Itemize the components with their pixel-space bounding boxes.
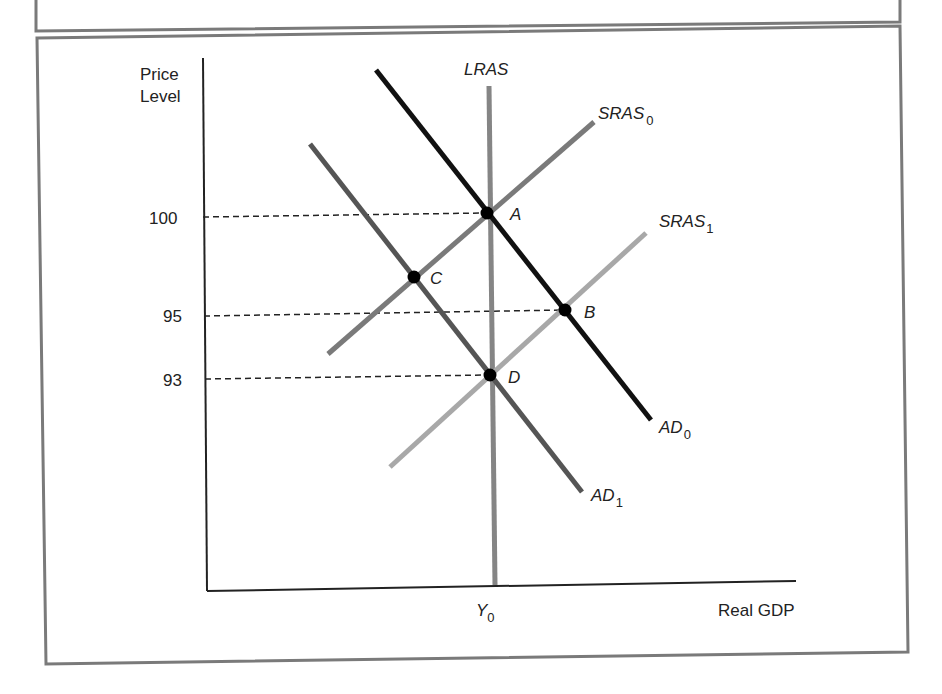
ad1-label: AD1	[590, 486, 623, 510]
figure-frame	[37, 26, 908, 664]
lras-curve	[489, 86, 495, 585]
x-tick-y0: Y0	[476, 601, 495, 625]
sras1-label: SRAS1	[659, 212, 714, 236]
y-tick-93: 93	[163, 371, 182, 390]
point-a-label: A	[509, 205, 521, 224]
point-c-label: C	[430, 269, 443, 288]
point-c-marker	[408, 271, 421, 284]
ad1-curve	[310, 144, 582, 492]
y-tick-95: 95	[163, 307, 182, 326]
chart-canvas: Price Level Real GDP 100 95 93 Y0 LRAS S…	[0, 0, 942, 694]
dashed-line-93	[205, 375, 488, 379]
point-b-marker	[559, 304, 572, 317]
point-d-marker	[484, 369, 497, 382]
y-axis	[203, 58, 207, 591]
y-axis-label-line2: Level	[140, 87, 181, 106]
dashed-line-95	[204, 310, 563, 316]
point-d-label: D	[508, 368, 520, 387]
lras-label: LRAS	[464, 60, 509, 79]
x-axis	[207, 581, 796, 591]
ad0-label: AD0	[658, 418, 691, 442]
dashed-line-100	[203, 213, 484, 217]
sras0-label: SRAS0	[598, 104, 654, 128]
y-tick-100: 100	[149, 209, 177, 228]
point-a-marker	[481, 207, 494, 220]
x-axis-label: Real GDP	[718, 601, 795, 620]
y-axis-label-line1: Price	[140, 65, 179, 84]
point-b-label: B	[584, 303, 595, 322]
